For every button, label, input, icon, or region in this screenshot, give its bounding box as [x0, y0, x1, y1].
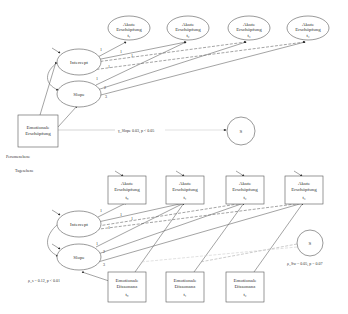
- dae2-title: Akute: [239, 181, 252, 186]
- ed2-line1: Emotionale: [233, 278, 257, 283]
- day-path-slope-ae3: [98, 203, 303, 262]
- dae3-title2: Erschöpfung: [291, 187, 317, 192]
- loading-i3: 1: [131, 53, 133, 58]
- ae4-time: t₄: [306, 33, 309, 38]
- dae0-title: Akute: [121, 181, 134, 186]
- ed2-line2: Dissonanz: [235, 284, 257, 289]
- path-predictor-intercept: [40, 62, 56, 115]
- dae0-title2: Erschöpfung: [114, 187, 140, 192]
- dae1-title: Akute: [179, 181, 192, 186]
- predictor-line2: Erschöpfung: [25, 131, 51, 136]
- slope-label: Slope: [73, 92, 85, 97]
- dae2-time: t₂: [243, 195, 246, 200]
- day-slope-label: Slope: [73, 255, 85, 260]
- path-predictor-slope: [58, 106, 77, 127]
- gamma-slope-label: γ_Slope 0.03, p < 0.05: [118, 128, 154, 134]
- s-dashed-2: [140, 247, 297, 262]
- path-intercept-ae4: [92, 42, 305, 70]
- person-level-label: Personenebene: [6, 154, 30, 159]
- dae1-title2: Erschöpfung: [172, 187, 198, 192]
- loading-i2: 1: [120, 49, 122, 54]
- residual-intercept: [52, 48, 60, 53]
- ae2-title2: Erschöpfung: [175, 27, 201, 32]
- day-covariance-intercept-slope: [48, 224, 59, 256]
- predictor-line1: Emotionale: [26, 125, 50, 130]
- day-intercept-label: Intercept: [70, 222, 88, 227]
- s-label-person: S: [240, 129, 243, 134]
- day-path-slope-ae2: [98, 203, 244, 254]
- s-dashed-1: [200, 244, 297, 262]
- day-loading-s3: 3: [103, 262, 105, 267]
- rho-s-annotation: ρ_s = 0.12, p < 0.01: [28, 278, 60, 284]
- dae1-time: t₁: [183, 195, 186, 200]
- path-slope-ae4: [97, 42, 305, 96]
- ae3-time: t₃: [247, 33, 250, 38]
- ae3-title2: Erschöpfung: [236, 27, 262, 32]
- intercept-label: Intercept: [70, 60, 88, 65]
- day-loading-i4: 1: [108, 225, 110, 230]
- ae1-time: t₁: [127, 33, 130, 38]
- day-loading-i3: 1: [131, 216, 133, 221]
- path-ed0-slope: [82, 272, 112, 282]
- ed1-line1: Emotionale: [173, 278, 197, 283]
- dae3-time: t₃: [302, 195, 305, 200]
- loading-s2: 2: [104, 85, 106, 90]
- day-loading-s1: 1: [96, 241, 98, 246]
- ed1-time: t₁: [183, 292, 186, 297]
- ed0-line1: Emotionale: [115, 278, 139, 283]
- day-loading-s2: 2: [103, 249, 105, 254]
- dae2-title2: Erschöpfung: [232, 187, 258, 192]
- day-loading-i2: 1: [120, 212, 122, 217]
- ed1-line2: Dissonanz: [175, 284, 197, 289]
- sem-diagram: Akute Erschöpfung t₁ Akute Erschöpfung t…: [0, 0, 348, 314]
- rho-sw-annotation: ρ_Sw = 0.05, p = 0.07: [287, 261, 323, 267]
- ed0-time: t₀: [125, 292, 128, 297]
- person-level: [18, 16, 329, 147]
- ae2-time: t₂: [186, 33, 189, 38]
- loading-i4: 1: [108, 64, 110, 69]
- day-path-intercept-ae1: [98, 203, 184, 222]
- ed0-line2: Dissonanz: [117, 284, 139, 289]
- loading-s1: 1: [96, 76, 98, 81]
- loading-s3: 3: [105, 94, 107, 99]
- day-level-label: Tagesebene: [15, 168, 34, 173]
- dae0-time: t₀: [125, 195, 128, 200]
- ed2-time: t₂: [243, 292, 246, 297]
- s-label-day: S: [309, 241, 312, 246]
- dae3-title: Akute: [298, 181, 311, 186]
- ae1-title2: Erschöpfung: [116, 27, 142, 32]
- loading-i1: 1: [100, 47, 102, 52]
- day-loading-i1: 1: [100, 208, 102, 213]
- ae4-title2: Erschöpfung: [295, 27, 321, 32]
